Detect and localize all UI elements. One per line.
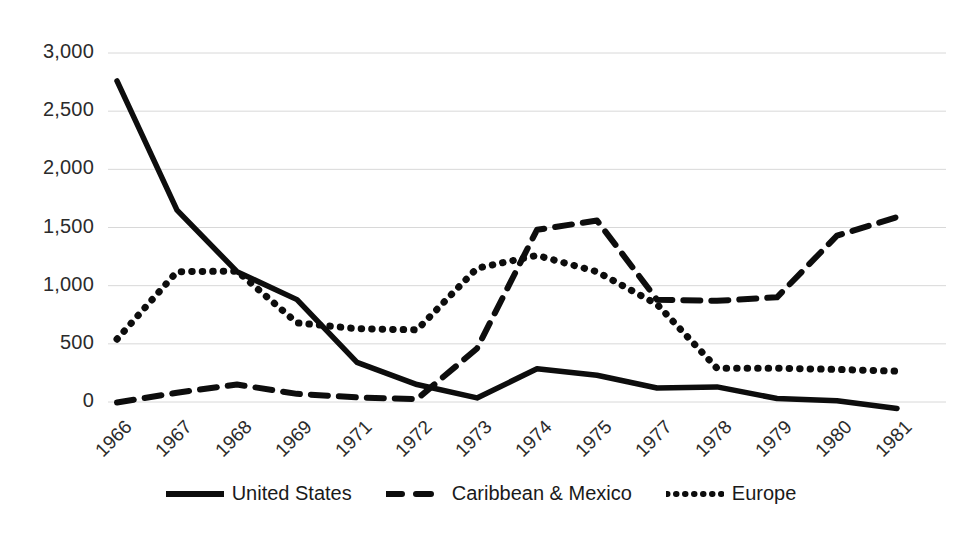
y-axis-label-1500: 1,500 — [8, 215, 94, 238]
y-axis-label-2500: 2,500 — [8, 98, 94, 121]
dotted-line-key — [666, 487, 724, 501]
y-axis-label-500: 500 — [8, 331, 94, 354]
y-axis-label-1000: 1,000 — [8, 273, 94, 296]
legend-item-united-states[interactable]: United States — [166, 482, 352, 505]
line-chart: 05001,0001,5002,0002,5003,000 1966196719… — [0, 0, 962, 534]
legend-item-europe[interactable]: Europe — [666, 482, 797, 505]
y-axis-label-0: 0 — [8, 389, 94, 412]
dashed-line-key — [386, 487, 444, 501]
chart-legend: United StatesCaribbean & MexicoEurope — [0, 482, 962, 505]
series-line-united-states — [117, 81, 897, 408]
gridlines — [108, 53, 946, 402]
series-line-europe — [117, 255, 897, 371]
series-lines — [117, 81, 897, 408]
legend-label: United States — [232, 482, 352, 505]
solid-line-key — [166, 487, 224, 501]
y-axis-label-3000: 3,000 — [8, 40, 94, 63]
legend-label: Caribbean & Mexico — [452, 482, 632, 505]
series-line-caribbean-mexico — [117, 217, 897, 403]
y-axis-label-2000: 2,000 — [8, 156, 94, 179]
legend-label: Europe — [732, 482, 797, 505]
legend-item-caribbean-mexico[interactable]: Caribbean & Mexico — [386, 482, 632, 505]
